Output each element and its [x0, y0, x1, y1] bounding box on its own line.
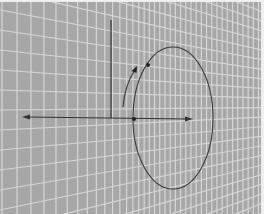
circle-point [146, 63, 150, 67]
diagram-stage [0, 0, 264, 214]
origin-point [132, 117, 136, 121]
rotation-diagram [0, 0, 264, 214]
